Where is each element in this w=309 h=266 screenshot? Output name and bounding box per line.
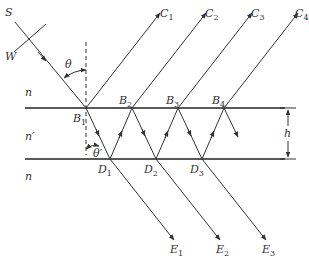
point-d1-label: D1 bbox=[97, 163, 112, 178]
beam-c1-label: C1 bbox=[160, 7, 174, 22]
diagram-canvas: h S W θ θ′ n n′ n B1 B2 B3 B4 D1 D2 D3 C… bbox=[0, 0, 309, 266]
beam-c2-label: C2 bbox=[205, 7, 219, 22]
wavefront bbox=[14, 24, 46, 52]
medium-bottom-label: n bbox=[25, 170, 32, 183]
transmitted-beam-e3 bbox=[202, 159, 266, 240]
beam-e1-label: E1 bbox=[169, 243, 183, 258]
incident-arrow bbox=[38, 52, 46, 61]
source-label: S bbox=[5, 6, 13, 19]
point-b4-label: B4 bbox=[211, 94, 225, 109]
transmitted-beam-e2 bbox=[156, 159, 220, 240]
transmitted-beam-e1 bbox=[110, 159, 174, 240]
wavefront-label: W bbox=[5, 50, 18, 63]
theta-label: θ bbox=[65, 58, 72, 71]
beam-e3-label: E3 bbox=[261, 243, 275, 258]
reflected-beam-c4 bbox=[224, 13, 298, 108]
medium-top-label: n bbox=[25, 86, 32, 99]
medium-slab-label: n′ bbox=[25, 130, 35, 143]
theta-arc bbox=[64, 70, 86, 78]
internal-ray-b4 bbox=[224, 108, 238, 137]
beam-e2-label: E2 bbox=[215, 243, 229, 258]
point-b1-label: B1 bbox=[72, 112, 86, 127]
theta-prime-label: θ′ bbox=[93, 147, 103, 160]
beam-c4-label: C4 bbox=[295, 7, 309, 22]
point-d3-label: D3 bbox=[189, 163, 204, 178]
point-b3-label: B3 bbox=[165, 94, 179, 109]
beam-c3-label: C3 bbox=[251, 7, 265, 22]
point-b2-label: B2 bbox=[118, 94, 132, 109]
thickness-label: h bbox=[284, 127, 291, 140]
point-d2-label: D2 bbox=[143, 163, 158, 178]
